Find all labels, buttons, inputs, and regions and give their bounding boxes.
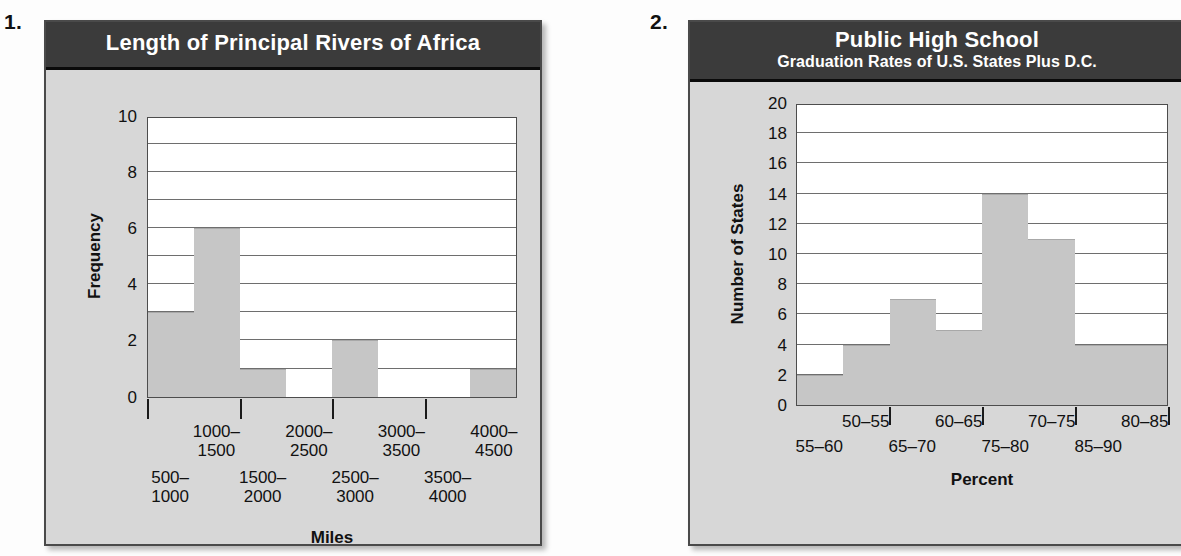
bar-slot xyxy=(378,118,424,397)
figure-1-x-axis-ticks xyxy=(147,399,517,419)
x-tick-label: 85–90 xyxy=(1052,437,1145,456)
figure-1-plot-area xyxy=(147,117,517,398)
x-tick-label: 3000–3500 xyxy=(355,422,448,460)
x-tick-mark xyxy=(240,399,242,419)
bar-slot xyxy=(890,105,936,405)
bar xyxy=(194,228,240,397)
figure-1-chart-body: Frequency 0246810 1000–15002000–25003000… xyxy=(46,70,540,544)
x-tick-label-line2: 2000 xyxy=(216,487,309,506)
bar-slot xyxy=(843,105,889,405)
y-tick-label: 20 xyxy=(768,94,787,114)
x-tick-label-line2: 3500 xyxy=(355,441,448,460)
x-tick-label-line1: 1000– xyxy=(170,422,263,441)
x-tick-label: 80–85 xyxy=(1098,412,1181,431)
bar xyxy=(843,345,889,405)
x-tick-mark xyxy=(425,399,427,419)
x-tick-label-line1: 3500– xyxy=(401,468,494,487)
y-tick-label: 6 xyxy=(128,219,137,239)
bar-slot xyxy=(1028,105,1074,405)
x-tick-label-line1: 60–65 xyxy=(912,412,1005,431)
bar-slot xyxy=(1121,105,1167,405)
y-tick-label: 10 xyxy=(768,245,787,265)
figure-1-bars xyxy=(148,118,516,397)
figure-2-bars xyxy=(797,105,1167,405)
bar xyxy=(982,194,1028,405)
bar xyxy=(936,330,982,406)
bar-slot xyxy=(470,118,516,397)
figure-1-title-bar: Length of Principal Rivers of Africa xyxy=(46,22,540,70)
x-tick-label: 60–65 xyxy=(912,412,1005,431)
bar-slot xyxy=(797,105,843,405)
bar xyxy=(148,312,194,396)
bar xyxy=(797,375,843,405)
figure-1-y-axis-title: Frequency xyxy=(84,116,104,397)
x-tick-label: 2000–2500 xyxy=(263,422,356,460)
x-tick-label-line2: 4000 xyxy=(401,487,494,506)
x-tick-label: 75–80 xyxy=(959,437,1052,456)
figure-2-y-axis-ticks: 02468101214161820 xyxy=(759,104,787,406)
x-tick-label-line1: 50–55 xyxy=(819,412,912,431)
figure-2-x-axis-title: Percent xyxy=(796,470,1168,490)
x-tick-label-line2: 1000 xyxy=(124,487,217,506)
y-tick-label: 0 xyxy=(778,396,787,416)
figure-graduation-rates: Public High School Graduation Rates of U… xyxy=(688,20,1181,546)
x-tick-label-line2: 2500 xyxy=(263,441,356,460)
bar xyxy=(1121,345,1167,405)
bar-slot xyxy=(194,118,240,397)
bar-slot xyxy=(982,105,1028,405)
y-tick-label: 16 xyxy=(768,154,787,174)
figure-2-chart-body: Number of States 02468101214161820 50–55… xyxy=(690,82,1181,544)
x-tick-label-line2: 1500 xyxy=(170,441,263,460)
bar xyxy=(1028,239,1074,405)
bar-slot xyxy=(332,118,378,397)
y-tick-label: 4 xyxy=(128,275,137,295)
worksheet-page: 1. Length of Principal Rivers of Africa … xyxy=(0,0,1181,556)
x-tick-label-line1: 55–60 xyxy=(773,437,866,456)
figure-rivers-of-africa: Length of Principal Rivers of Africa Fre… xyxy=(44,20,542,546)
x-tick-label: 2500–3000 xyxy=(309,468,402,506)
x-tick-label: 4000–4500 xyxy=(448,422,541,460)
x-tick-label-line1: 3000– xyxy=(355,422,448,441)
figure-1-y-axis-ticks: 0246810 xyxy=(111,117,137,398)
problem-number-1: 1. xyxy=(4,10,22,34)
y-tick-label: 0 xyxy=(128,388,137,408)
y-tick-label: 2 xyxy=(128,331,137,351)
y-tick-label: 2 xyxy=(778,366,787,386)
x-tick-label-line1: 65–70 xyxy=(866,437,959,456)
figure-1-title: Length of Principal Rivers of Africa xyxy=(52,31,534,56)
bar-slot xyxy=(1075,105,1121,405)
x-tick-label-line2: 3000 xyxy=(309,487,402,506)
bar-slot xyxy=(424,118,470,397)
y-tick-label: 14 xyxy=(768,185,787,205)
x-tick-label: 65–70 xyxy=(866,437,959,456)
y-tick-label: 8 xyxy=(128,163,137,183)
x-tick-label: 50–55 xyxy=(819,412,912,431)
x-tick-label-line1: 1500– xyxy=(216,468,309,487)
x-tick-label: 55–60 xyxy=(773,437,866,456)
y-tick-label: 4 xyxy=(778,336,787,356)
bar-slot xyxy=(148,118,194,397)
bar xyxy=(470,369,516,397)
bar xyxy=(890,299,936,405)
figure-2-subtitle: Graduation Rates of U.S. States Plus D.C… xyxy=(696,53,1178,71)
figure-2-title: Public High School xyxy=(696,28,1178,53)
bar xyxy=(240,369,286,397)
x-tick-label-line1: 70–75 xyxy=(1005,412,1098,431)
x-tick-label: 1000–1500 xyxy=(170,422,263,460)
figure-2-y-axis-title: Number of States xyxy=(728,103,748,405)
x-tick-label-line1: 80–85 xyxy=(1098,412,1181,431)
x-tick-label-line1: 85–90 xyxy=(1052,437,1145,456)
x-tick-label: 3500–4000 xyxy=(401,468,494,506)
y-tick-label: 6 xyxy=(778,305,787,325)
x-tick-label-line1: 2500– xyxy=(309,468,402,487)
x-tick-label: 500–1000 xyxy=(124,468,217,506)
x-tick-label-line2: 4500 xyxy=(448,441,541,460)
y-tick-label: 10 xyxy=(118,107,137,127)
bar-slot xyxy=(286,118,332,397)
figure-2-title-bar: Public High School Graduation Rates of U… xyxy=(690,22,1181,82)
bar xyxy=(1075,345,1121,405)
x-tick-label: 70–75 xyxy=(1005,412,1098,431)
x-tick-label-line1: 4000– xyxy=(448,422,541,441)
x-tick-label: 1500–2000 xyxy=(216,468,309,506)
bar-slot xyxy=(240,118,286,397)
